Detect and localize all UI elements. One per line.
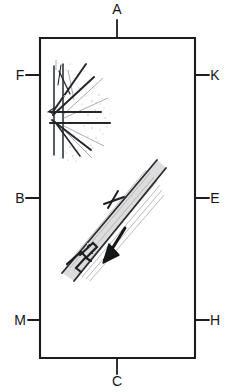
label-H: H [210,312,220,328]
label-E: E [210,190,219,206]
fan-hatch-region [48,60,111,162]
fan-ray-short-1 [59,71,70,94]
dike-band-fill [62,160,166,281]
label-B: B [15,190,24,206]
label-M: M [14,312,26,328]
structural-sketch-svg: A C F B M K E H [0,0,230,392]
dike-edge-lower-right [74,168,166,281]
label-K: K [210,67,220,83]
label-F: F [16,67,25,83]
label-A: A [112,1,122,17]
dike-band [62,160,166,281]
sketch-canvas: A C F B M K E H [0,0,230,392]
motion-arrow-head [103,244,119,263]
label-C: C [112,373,122,389]
